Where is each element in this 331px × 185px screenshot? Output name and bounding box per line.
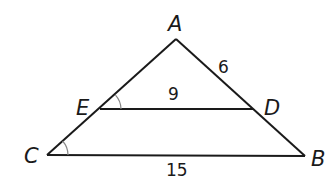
segment-CB: [47, 155, 305, 156]
vertex-label-B: B: [311, 147, 325, 171]
segment-AB: [176, 39, 305, 156]
vertex-label-D: D: [264, 96, 280, 120]
vertex-label-A: A: [166, 12, 182, 36]
measure-AD: 6: [218, 57, 229, 77]
angle-arc-C: [63, 141, 68, 155]
measure-ED: 9: [168, 84, 179, 104]
vertex-label-E: E: [76, 96, 90, 120]
segment-AC: [47, 39, 176, 155]
vertex-label-C: C: [24, 144, 39, 168]
measure-CB: 15: [166, 160, 188, 180]
angle-arc-E: [116, 95, 122, 109]
triangle-diagram: A E D C B 6 9 15: [0, 0, 331, 185]
